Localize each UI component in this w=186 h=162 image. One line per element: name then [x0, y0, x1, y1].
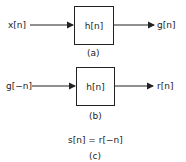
- equation-c: s[n] = r[−n]: [68, 135, 123, 145]
- system-box-a: h[n]: [74, 6, 114, 45]
- caption-a: (a): [87, 48, 100, 58]
- output-a-label: g[n]: [157, 20, 175, 30]
- system-b-label: h[n]: [86, 82, 104, 92]
- output-b-label: r[n]: [157, 81, 173, 91]
- caption-b: (b): [89, 111, 102, 121]
- caption-c: (c): [89, 151, 101, 161]
- input-b-label: g[−n]: [6, 81, 32, 91]
- input-a-label: x[n]: [8, 20, 26, 30]
- system-a-label: h[n]: [85, 21, 103, 31]
- system-box-b: h[n]: [76, 67, 115, 106]
